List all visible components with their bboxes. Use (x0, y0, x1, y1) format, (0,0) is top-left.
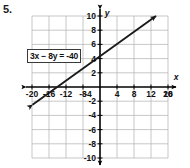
y-tick-label: -10 (84, 153, 97, 163)
y-tick-label: 8 (91, 25, 96, 35)
x-tick-label: -16 (43, 89, 56, 99)
x-tick-label: -12 (60, 89, 73, 99)
coordinate-graph: -20 -16 -12 -8 4 8 12 16 -4 20 10 8 6 4 … (0, 0, 190, 168)
x-tick-label: 8 (132, 89, 137, 99)
y-tick-label: 2 (91, 68, 96, 78)
y-tick-label: 6 (91, 39, 96, 49)
equation-callout: 3x − 8y = -40 (27, 49, 81, 63)
y-tick-label: -6 (88, 125, 96, 135)
graph-svg: -20 -16 -12 -8 4 8 12 16 -4 20 10 8 6 4 … (0, 0, 190, 168)
x-tick-label: 4 (115, 89, 120, 99)
figure-container: 5. (0, 0, 190, 168)
y-tick-label: -2 (88, 96, 96, 106)
x-axis-label: x (173, 72, 180, 82)
x-tick-label: 12 (146, 89, 156, 99)
y-tick-label: -8 (88, 139, 96, 149)
x-tick-label: -20 (26, 89, 39, 99)
y-tick-label: -4 (88, 110, 96, 120)
x-tick-label-20: 20 (163, 89, 173, 99)
y-tick-label: 10 (87, 11, 97, 21)
y-tick-label: 4 (91, 54, 96, 64)
